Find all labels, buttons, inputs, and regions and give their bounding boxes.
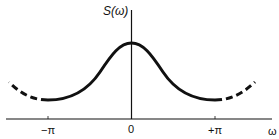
tick-label-pos-pi: +π (208, 124, 222, 136)
tick-label-neg-pi: −π (41, 124, 55, 136)
spectrum-plot (0, 0, 279, 139)
tick-label-zero: 0 (128, 123, 134, 135)
spectrum-curve-dashed-left (9, 82, 48, 100)
y-axis-label: S(ω) (103, 4, 128, 18)
x-axis-label: ω (268, 125, 277, 137)
spectrum-curve-dashed-right (215, 82, 255, 100)
